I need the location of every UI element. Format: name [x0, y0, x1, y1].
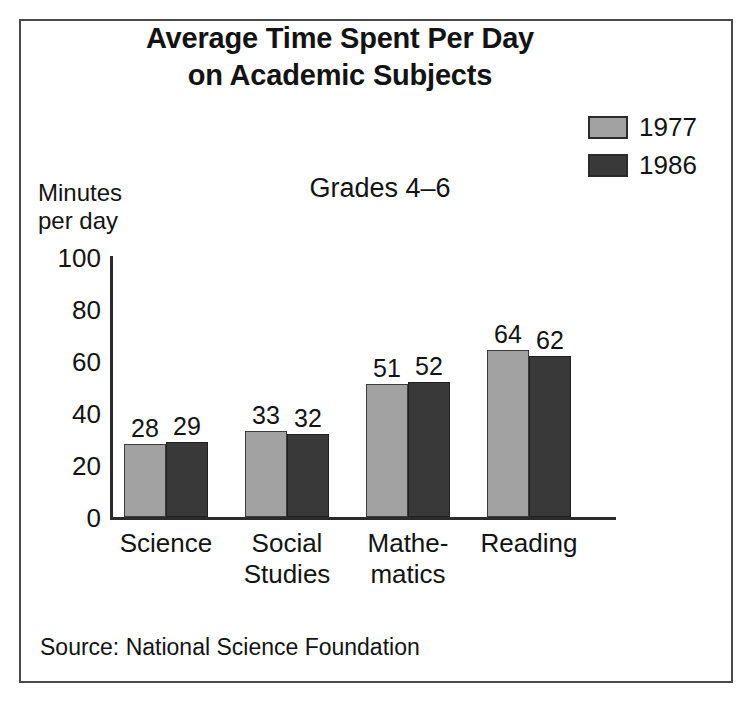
y-tick-40: 40: [72, 401, 101, 427]
y-tick-80: 80: [72, 297, 101, 323]
bar-value-mathematics-1986: 52: [415, 354, 443, 379]
bar-value-reading-1986: 62: [536, 328, 564, 353]
y-axis-title-line-2: per day: [38, 207, 122, 235]
bar-group-science: 28 29: [124, 255, 208, 517]
legend-item-1977[interactable]: 1977: [588, 108, 708, 146]
title-line-1: Average Time Spent Per Day: [40, 20, 640, 57]
bar-value-social-studies-1986: 32: [294, 406, 322, 431]
bar-mathematics-1977[interactable]: 51: [366, 384, 408, 517]
y-tick-100: 100: [58, 245, 101, 271]
x-label-mathematics-line-2: matics: [333, 559, 483, 590]
chart-legend: 1977 1986: [588, 108, 708, 184]
x-label-reading-line-1: Reading: [454, 528, 604, 559]
y-axis-title-line-1: Minutes: [38, 179, 122, 207]
bar-social-studies-1986[interactable]: 32: [287, 434, 329, 517]
bar-group-social-studies: 33 32: [245, 255, 329, 517]
bar-value-science-1977: 28: [131, 416, 159, 441]
bar-value-reading-1977: 64: [494, 322, 522, 347]
y-tick-60: 60: [72, 349, 101, 375]
chart-figure: Average Time Spent Per Day on Academic S…: [0, 0, 755, 706]
legend-label-1977: 1977: [639, 114, 697, 140]
legend-item-1986[interactable]: 1986: [588, 146, 708, 184]
x-label-reading: Reading: [454, 528, 604, 559]
bar-group-mathematics: 51 52: [366, 255, 450, 517]
legend-label-1986: 1986: [639, 152, 697, 178]
source-note: Source: National Science Foundation: [40, 634, 420, 661]
bar-science-1977[interactable]: 28: [124, 444, 166, 517]
bar-science-1986[interactable]: 29: [166, 442, 208, 517]
y-tick-20: 20: [72, 453, 101, 479]
bar-reading-1986[interactable]: 62: [529, 356, 571, 517]
bar-group-reading: 64 62: [487, 255, 571, 517]
title-line-2: on Academic Subjects: [40, 57, 640, 94]
bar-value-mathematics-1977: 51: [373, 356, 401, 381]
chart-subtitle: Grades 4–6: [210, 173, 550, 204]
y-axis-line: [110, 256, 113, 518]
bar-reading-1977[interactable]: 64: [487, 350, 529, 517]
bar-social-studies-1977[interactable]: 33: [245, 431, 287, 517]
y-axis-title: Minutes per day: [38, 179, 122, 235]
chart-title: Average Time Spent Per Day on Academic S…: [40, 20, 640, 94]
legend-swatch-1986: [588, 154, 628, 177]
bar-value-social-studies-1977: 33: [252, 403, 280, 428]
bar-value-science-1986: 29: [173, 414, 201, 439]
legend-swatch-1977: [588, 116, 628, 139]
plot-area: 100 80 60 40 20 0 28 29 33 32 51: [110, 256, 616, 520]
bar-mathematics-1986[interactable]: 52: [408, 382, 450, 517]
x-axis-line: [110, 517, 616, 520]
